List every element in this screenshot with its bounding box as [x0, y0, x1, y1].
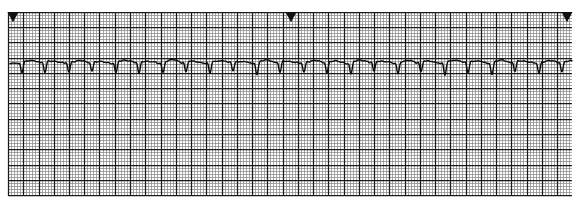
ecg-trace-canvas	[0, 0, 578, 207]
ecg-rhythm-strip: ECG Rhythm Strip regular narrow-complex …	[0, 0, 578, 207]
